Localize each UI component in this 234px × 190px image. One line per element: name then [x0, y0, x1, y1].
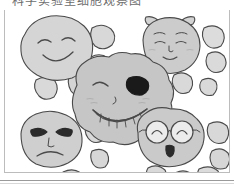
- bottom-divider: [0, 180, 234, 181]
- right-lens-icon: [171, 121, 193, 143]
- right-blush: [139, 103, 145, 104]
- open-mouth-icon: [166, 145, 174, 157]
- left-blush: [87, 99, 93, 100]
- cartoon-cell-faces-illustration: [5, 10, 230, 173]
- clipped-heading-text: 科学实验室细胞观察图: [12, 0, 142, 8]
- face-body: [21, 111, 82, 167]
- left-blush: [149, 50, 155, 51]
- illustration-frame: [4, 10, 230, 173]
- left-lens-icon: [146, 121, 168, 143]
- bottom-divider-secondary: [0, 183, 234, 184]
- face-angry-bottom-left: [21, 111, 82, 167]
- left-blush-2: [91, 103, 97, 104]
- right-blush: [187, 50, 193, 51]
- right-blush-2: [143, 99, 149, 100]
- screenshot-root: 科学实验室细胞观察图: [0, 0, 234, 190]
- eye-patch-icon: [126, 77, 148, 95]
- clipped-heading: 科学实验室细胞观察图: [0, 0, 234, 9]
- face-glasses-bottom-right: [137, 108, 204, 167]
